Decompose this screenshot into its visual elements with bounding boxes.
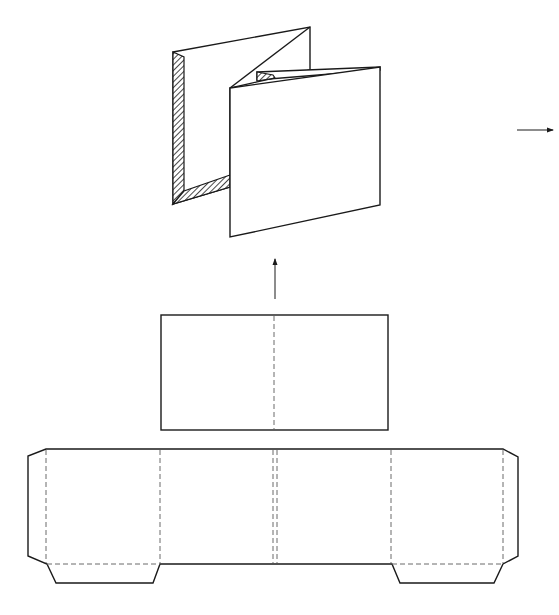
left-hatched-flap (173, 52, 184, 204)
front-panel (230, 67, 380, 237)
flat-insert-card (161, 315, 388, 430)
flat-die-cut (28, 449, 518, 583)
folding-diagram (0, 0, 559, 615)
folded-3d-view (173, 27, 380, 237)
